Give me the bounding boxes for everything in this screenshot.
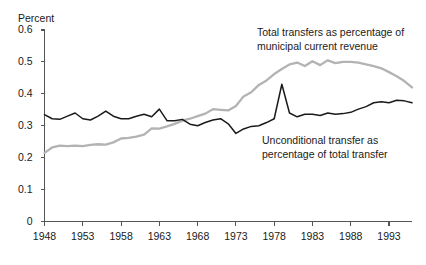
series-line-unconditional-transfer [45,84,413,133]
chart-container: Percent Total transfers as percentage of… [0,0,426,265]
annotation-total-transfers-line2: municipal current revenue [257,40,404,54]
y-tick-label: 0.3 [7,119,33,131]
y-tick-label: 0 [7,215,33,227]
y-tick-label: 0.1 [7,183,33,195]
annotation-unconditional-transfer-line1: Unconditional transfer as [262,134,388,148]
x-tick-label: 1978 [257,230,291,242]
x-tick-label: 1973 [219,230,253,242]
annotation-unconditional-transfer: Unconditional transfer as percentage of … [262,134,388,161]
y-tick-label: 0.5 [7,55,33,67]
x-tick-label: 1983 [295,230,329,242]
y-tick-label: 0.6 [7,23,33,35]
annotation-total-transfers: Total transfers as percentage of municip… [257,26,404,53]
x-tick-label: 1953 [66,230,100,242]
y-tick-label: 0.4 [7,87,33,99]
x-tick-label: 1948 [28,230,62,242]
annotation-unconditional-transfer-line2: percentage of total transfer [262,148,388,162]
x-tick-label: 1993 [372,230,406,242]
x-tick-label: 1988 [334,230,368,242]
x-tick-label: 1968 [181,230,215,242]
axes-group [41,30,413,226]
x-tick-label: 1958 [104,230,138,242]
x-tick-label: 1963 [142,230,176,242]
annotation-total-transfers-line1: Total transfers as percentage of [257,26,404,40]
y-tick-label: 0.2 [7,151,33,163]
